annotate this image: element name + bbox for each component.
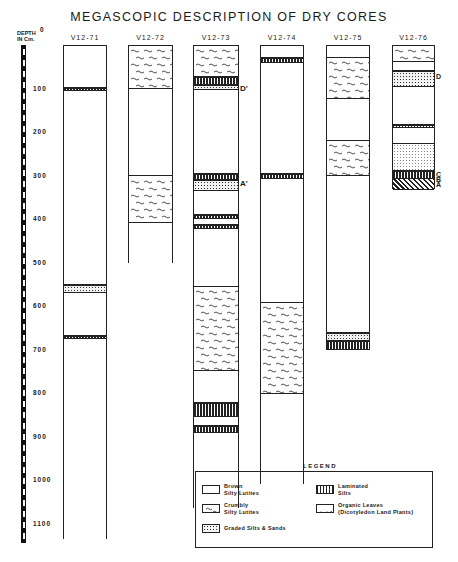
layer-laminated: [194, 77, 238, 85]
layer-brown: [129, 223, 172, 263]
ruler-dash: [23, 357, 25, 363]
core-column-v12-71: [63, 45, 107, 539]
core-column-v12-75: [326, 45, 370, 350]
layer-organic: [393, 179, 434, 189]
ruler-dash: [23, 324, 25, 330]
depth-tick-600: 600: [33, 302, 47, 309]
legend-swatch-icon: [202, 504, 220, 513]
ruler-dash: [23, 445, 25, 451]
layer-crumbly: [327, 141, 369, 176]
depth-tick-300: 300: [33, 172, 47, 179]
layer-graded: [327, 333, 369, 341]
ruler-dash: [23, 368, 25, 374]
layer-crumbly: [261, 303, 303, 394]
layer-brown: [261, 179, 303, 303]
core-label: V12-73: [186, 34, 246, 41]
ruler-dash: [23, 269, 25, 275]
depth-tick-700: 700: [33, 346, 47, 353]
ruler-dash: [23, 434, 25, 440]
layer-laminated: [393, 171, 434, 179]
layer-laminated: [194, 403, 238, 417]
depth-tick-100: 100: [33, 85, 47, 92]
depth-tick-800: 800: [33, 389, 47, 396]
ruler-dash: [23, 170, 25, 176]
depth-axis-label: DEPTH IN Cm.: [17, 30, 36, 42]
layer-brown: [194, 417, 238, 426]
depth-tick-500: 500: [33, 259, 47, 266]
depth-tick-900: 900: [33, 433, 47, 440]
layer-crumbly: [129, 46, 172, 89]
diagram-title: MEGASCOPIC DESCRIPTION OF DRY CORES: [0, 10, 458, 24]
ruler-dash: [23, 126, 25, 132]
ruler-dash: [23, 456, 25, 462]
ruler-dash: [23, 71, 25, 77]
core-label: V12-74: [252, 34, 312, 41]
layer-brown: [194, 90, 238, 174]
ruler-dash: [23, 379, 25, 385]
ruler-dash: [23, 49, 25, 55]
legend-label: BrownSilty Lutites: [224, 483, 259, 496]
ruler-dash: [23, 192, 25, 198]
ruler-dash: [23, 159, 25, 165]
layer-brown: [194, 371, 238, 403]
layer-brown: [327, 46, 369, 58]
ruler-dash: [23, 390, 25, 396]
depth-tick-0: 0: [40, 26, 45, 33]
legend-item-brown: BrownSilty Lutites: [202, 483, 259, 496]
ruler-dash: [23, 225, 25, 231]
ruler-dash: [23, 104, 25, 110]
ruler-dash: [23, 522, 25, 528]
layer-laminated: [327, 341, 369, 351]
layer-brown: [327, 176, 369, 333]
ruler-dash: [23, 291, 25, 297]
ruler-dash: [23, 137, 25, 143]
ruler-dash: [23, 258, 25, 264]
layer-crumbly: [327, 58, 369, 99]
layer-brown: [393, 62, 434, 71]
layer-crumbly: [393, 46, 434, 62]
ruler-dash: [23, 500, 25, 506]
legend-title: LEGEND: [303, 463, 337, 469]
depth-tick-1100: 1100: [33, 520, 51, 527]
layer-brown: [64, 293, 106, 336]
ruler-dash: [23, 93, 25, 99]
legend-swatch-icon: [202, 524, 220, 533]
legend-label: Graded Silts & Sands: [224, 525, 286, 532]
legend-item-graded: Graded Silts & Sands: [202, 524, 286, 533]
ruler-dash: [23, 115, 25, 121]
depth-label-line2: IN Cm.: [17, 36, 36, 42]
layer-graded: [64, 285, 106, 293]
core-label: V12-76: [384, 34, 444, 41]
core-marker: D': [240, 84, 248, 93]
ruler-dash: [23, 346, 25, 352]
layer-brown: [261, 63, 303, 174]
legend-label: Organic Leaves(Dicotyledon Land Plants): [338, 502, 413, 515]
legend-swatch-icon: [316, 485, 334, 494]
ruler-dash: [23, 412, 25, 418]
ruler-dash: [23, 247, 25, 253]
ruler-dash: [23, 82, 25, 88]
ruler-dash: [23, 280, 25, 286]
depth-tick-1000: 1000: [33, 476, 51, 483]
core-marker: A: [436, 181, 441, 188]
ruler-dash: [23, 203, 25, 209]
layer-brown: [261, 46, 303, 58]
layer-brown: [194, 191, 238, 215]
core-column-v12-74: [260, 45, 304, 484]
legend-label: LaminatedSilts: [338, 483, 368, 496]
depth-tick-400: 400: [33, 215, 47, 222]
layer-laminated: [194, 426, 238, 433]
layer-crumbly: [194, 46, 238, 77]
layer-brown: [393, 128, 434, 144]
core-label: V12-72: [121, 34, 181, 41]
layer-graded: [194, 180, 238, 192]
ruler-dash: [23, 467, 25, 473]
legend-swatch-icon: [316, 504, 334, 513]
ruler-dash: [23, 401, 25, 407]
ruler-dash: [23, 511, 25, 517]
ruler-dash: [23, 181, 25, 187]
layer-brown: [129, 89, 172, 177]
ruler-dash: [23, 302, 25, 308]
layer-graded: [393, 71, 434, 87]
ruler-dash: [23, 423, 25, 429]
